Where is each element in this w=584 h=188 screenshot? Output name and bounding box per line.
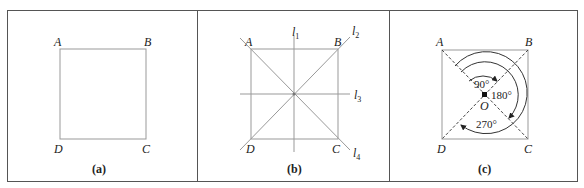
center-point: [482, 92, 487, 97]
axis-label-l4: l4: [353, 146, 360, 162]
caption: (c): [478, 162, 491, 176]
angle-90: 90°: [474, 78, 489, 90]
axis-label-l3: l3: [354, 88, 361, 104]
vertex-d: D: [53, 142, 63, 156]
caption: (a): [92, 162, 106, 176]
panel-a: A B C D (a): [53, 35, 152, 176]
vertex-b: B: [144, 35, 152, 49]
panel-c: A B C D O 90° 180° 270° (c): [435, 35, 533, 176]
vertex-c: C: [142, 142, 151, 156]
axis-label-l1: l1: [292, 25, 299, 41]
vertex-a: A: [244, 35, 253, 49]
vertex-c: C: [524, 142, 533, 156]
caption: (b): [287, 162, 302, 176]
vertex-b: B: [334, 35, 342, 49]
axis-label-l2: l2: [352, 24, 359, 40]
vertex-d: D: [245, 142, 255, 156]
vertex-b: B: [525, 35, 533, 49]
vertex-a: A: [435, 35, 444, 49]
vertex-a: A: [53, 35, 62, 49]
angle-270: 270°: [476, 118, 497, 130]
panel-b: A B C D l1 l2 l3 l4 (b): [240, 24, 361, 176]
square: [60, 49, 146, 139]
center-label: O: [480, 99, 489, 113]
figure: A B C D (a) A B C D l1 l2 l3 l4 (b) A B …: [0, 0, 584, 188]
vertex-c: C: [332, 142, 341, 156]
angle-180: 180°: [491, 89, 512, 101]
vertex-d: D: [436, 142, 446, 156]
